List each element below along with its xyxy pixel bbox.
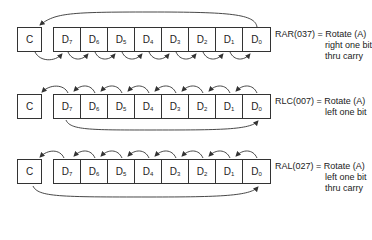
instruction-code: RAR(037) — [275, 29, 315, 39]
bit-cell-d0: D0 — [243, 160, 270, 183]
bit-cell-d3: D3 — [162, 95, 189, 118]
instruction-label-ral: RAL(027) = Rotate (A) left one bit thru … — [275, 161, 367, 194]
bit-cell-d5: D5 — [108, 160, 135, 183]
accumulator-register: D7 D6 D5 D4 D3 D2 D1 D0 — [53, 159, 271, 184]
accumulator-register: D7 D6 D5 D4 D3 D2 D1 D0 — [53, 27, 271, 52]
description-line: thru carry — [275, 51, 372, 62]
rlc-row: C D7 D6 D5 D4 D3 D2 D1 D0 RLC(007) = Rot… — [0, 94, 357, 154]
bit-cell-d4: D4 — [135, 95, 162, 118]
carry-label: C — [26, 166, 33, 177]
carry-label: C — [26, 101, 33, 112]
bit-cell-d1: D1 — [216, 28, 243, 51]
carry-flag-box: C — [17, 159, 42, 184]
carry-flag-box: C — [17, 27, 42, 52]
bit-cell-d7: D7 — [54, 28, 81, 51]
bit-cell-d3: D3 — [162, 160, 189, 183]
carry-label: C — [26, 34, 33, 45]
ral-row: C D7 D6 D5 D4 D3 D2 D1 D0 RAL(027) = Rot… — [0, 159, 357, 219]
description-line: thru carry — [275, 183, 367, 194]
description-line: = Rotate (A) — [318, 29, 367, 39]
description-line: right one bit — [275, 40, 372, 51]
bit-cell-d6: D6 — [81, 95, 108, 118]
bit-cell-d0: D0 — [243, 28, 270, 51]
bit-cell-d5: D5 — [108, 95, 135, 118]
description-line: left one bit — [275, 172, 367, 183]
bit-cell-d2: D2 — [189, 160, 216, 183]
bit-cell-d6: D6 — [81, 28, 108, 51]
bit-cell-d5: D5 — [108, 28, 135, 51]
rar-row: C D7 D6 D5 D4 D3 D2 D1 D0 RAR(037) = Rot… — [0, 27, 357, 87]
bit-cell-d2: D2 — [189, 95, 216, 118]
instruction-code: RAL(027) — [275, 161, 314, 171]
description-line: = Rotate (A) — [317, 96, 366, 106]
bit-cell-d4: D4 — [135, 160, 162, 183]
bit-cell-d4: D4 — [135, 28, 162, 51]
bit-cell-d1: D1 — [216, 160, 243, 183]
bit-cell-d6: D6 — [81, 160, 108, 183]
bit-cell-d2: D2 — [189, 28, 216, 51]
bit-cell-d3: D3 — [162, 28, 189, 51]
bit-cell-d7: D7 — [54, 160, 81, 183]
bit-cell-d0: D0 — [243, 95, 270, 118]
bit-cell-d7: D7 — [54, 95, 81, 118]
instruction-label-rlc: RLC(007) = Rotate (A) left one bit — [275, 96, 367, 118]
instruction-code: RLC(007) — [275, 96, 314, 106]
instruction-label-rar: RAR(037) = Rotate (A) right one bit thru… — [275, 29, 372, 62]
carry-flag-box: C — [17, 94, 42, 119]
bit-cell-d1: D1 — [216, 95, 243, 118]
accumulator-register: D7 D6 D5 D4 D3 D2 D1 D0 — [53, 94, 271, 119]
description-line: left one bit — [275, 107, 367, 118]
description-line: = Rotate (A) — [316, 161, 365, 171]
